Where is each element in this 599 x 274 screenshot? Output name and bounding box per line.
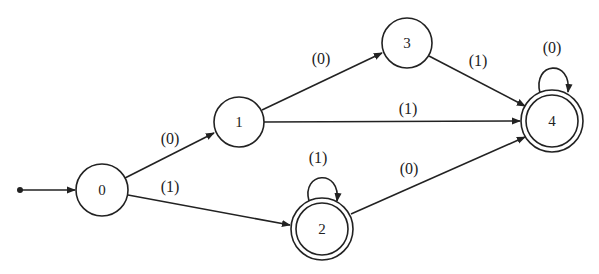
start-indicator bbox=[17, 187, 75, 193]
state-2-label: 2 bbox=[318, 221, 326, 237]
edge-label-3-4: (1) bbox=[469, 52, 488, 70]
state-0: 0 bbox=[76, 164, 128, 216]
state-4-accepting: 4 bbox=[521, 90, 583, 152]
edge-label-0-1: (0) bbox=[161, 130, 180, 148]
state-1-label: 1 bbox=[235, 114, 243, 130]
edge-label-2-2: (1) bbox=[309, 149, 328, 167]
edge-1-to-4 bbox=[264, 121, 520, 122]
transitions bbox=[125, 53, 568, 225]
state-diagram: (0) (1) (0) (1) (1) (0) (1) (0) 0 1 3 2 … bbox=[0, 0, 599, 274]
state-0-label: 0 bbox=[98, 182, 106, 198]
edge-0-to-2 bbox=[128, 195, 290, 225]
edge-label-0-2: (1) bbox=[161, 178, 180, 196]
edge-label-1-3: (0) bbox=[312, 50, 331, 68]
state-2-accepting: 2 bbox=[291, 198, 353, 260]
state-3: 3 bbox=[382, 18, 432, 68]
edge-2-to-4 bbox=[351, 137, 525, 214]
edge-label-1-4: (1) bbox=[399, 100, 418, 118]
edge-label-2-4: (0) bbox=[400, 160, 419, 178]
state-1: 1 bbox=[214, 97, 264, 147]
state-3-label: 3 bbox=[403, 35, 411, 51]
state-4-label: 4 bbox=[548, 113, 556, 129]
edge-label-4-4: (0) bbox=[543, 39, 562, 57]
